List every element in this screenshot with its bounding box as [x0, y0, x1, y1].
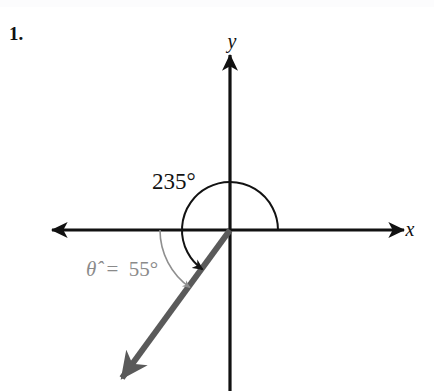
angle-label-235: 235°	[152, 169, 196, 194]
coordinate-plane-diagram: x y 235° θ̂ = 55°	[0, 0, 434, 391]
equals-sign: =	[107, 257, 119, 281]
reference-angle-value: 55°	[129, 257, 158, 281]
x-axis-label: x	[405, 218, 415, 240]
angle-arc-reference-55	[160, 230, 190, 287]
angle-label-reference-55: θ̂ = 55°	[86, 257, 158, 281]
y-axis-label: y	[226, 30, 237, 53]
angle-diagram-figure: 1. x y 235°	[0, 0, 434, 391]
terminal-side-ray	[122, 230, 230, 378]
theta-hat-symbol: θ̂	[86, 257, 104, 281]
